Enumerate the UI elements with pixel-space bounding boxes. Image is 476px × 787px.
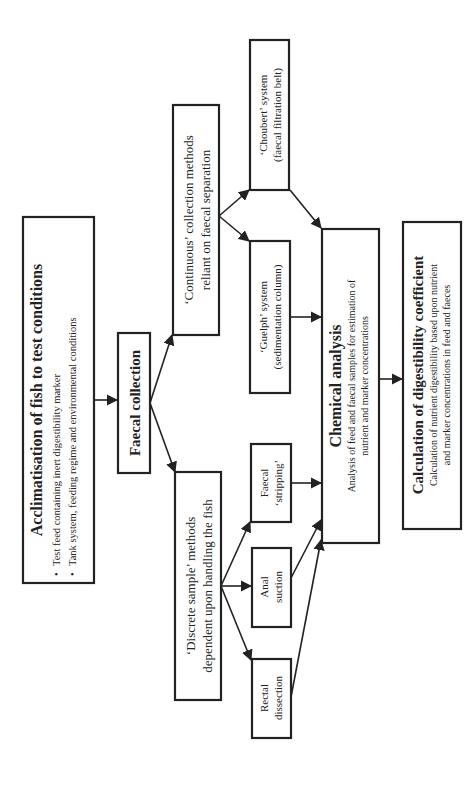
node-faecal-collection: Faecal collection	[118, 333, 150, 473]
edge-rectal-to-chemical	[291, 540, 321, 697]
acclimatisation-bullet-1: Test feed containing inert digestibility…	[51, 373, 62, 566]
anal-suction-line-2: suction	[272, 571, 284, 603]
stripping-line-2: ‘stripping’	[272, 460, 284, 506]
rectal-dissection-line-1: Rectal	[258, 684, 270, 712]
chemical-analysis-title: Chemical analysis	[327, 324, 345, 447]
acclimatisation-bullet-2: Tank system, feeding regime and environm…	[67, 317, 78, 566]
node-discrete: ‘Discrete sample’ methods dependent upon…	[175, 472, 221, 700]
edge-discrete-to-stripping	[221, 522, 250, 586]
bullet-icon: •	[51, 572, 62, 576]
calculation-title: Calculation of digestibility coefficient	[410, 256, 426, 495]
node-choubert: ‘Choubert’ system (faecal filtration bel…	[250, 40, 289, 190]
acclimatisation-title: Acclimatisation of fish to test conditio…	[28, 264, 45, 536]
edge-anal-suction-to-chemical	[291, 520, 321, 578]
node-rectal-dissection: Rectal dissection	[252, 659, 291, 738]
chemical-analysis-line-1: Analysis of feed and faecal samples for …	[346, 279, 357, 492]
node-chemical-analysis: Chemical analysis Analysis of feed and f…	[322, 229, 379, 543]
discrete-line-2: dependent upon handling the fish	[200, 499, 215, 673]
anal-suction-line-1: Anal	[258, 576, 270, 597]
node-faecal-stripping: Faecal ‘stripping’	[251, 444, 291, 522]
node-acclimatisation: Acclimatisation of fish to test conditio…	[23, 217, 94, 583]
edge-faecal-to-discrete	[150, 403, 175, 472]
flowchart: Acclimatisation of fish to test conditio…	[0, 0, 476, 787]
guelph-line-2: (sedimentation column)	[271, 264, 284, 369]
chemical-analysis-line-2: nutrient and marker concentrations	[359, 316, 370, 456]
flowchart-canvas: Acclimatisation of fish to test conditio…	[0, 0, 476, 787]
continuous-line-2: reliant on faecal separation	[198, 149, 213, 290]
edge-choubert-to-chemical	[290, 190, 321, 228]
node-anal-suction: Anal suction	[252, 548, 291, 627]
node-guelph: ‘Guelph’ system (sedimentation column)	[250, 241, 290, 393]
faecal-collection-title: Faecal collection	[127, 349, 143, 456]
edge-continuous-to-guelph	[219, 216, 249, 241]
node-continuous: ‘Continuous’ collection methods reliant …	[173, 105, 219, 335]
edge-faecal-to-continuous	[150, 335, 172, 403]
choubert-line-2: (faecal filtration belt)	[271, 68, 284, 162]
calculation-line-1: Calculation of nutrient digestibility ba…	[428, 264, 439, 486]
edge-discrete-to-rectal-dissection	[221, 586, 251, 660]
rectal-dissection-line-2: dissection	[272, 676, 284, 720]
stripping-line-1: Faecal	[258, 469, 270, 498]
guelph-line-1: ‘Guelph’ system	[257, 280, 269, 353]
node-calculation: Calculation of digestibility coefficient…	[403, 222, 461, 529]
bullet-icon: •	[67, 572, 78, 576]
calculation-line-2: and marker concentrations in feed and fa…	[441, 285, 452, 466]
discrete-line-1: ‘Discrete sample’ methods	[183, 517, 198, 655]
choubert-line-1: ‘Choubert’ system	[257, 74, 269, 155]
continuous-line-1: ‘Continuous’ collection methods	[181, 135, 196, 304]
edge-continuous-to-choubert	[219, 190, 249, 216]
